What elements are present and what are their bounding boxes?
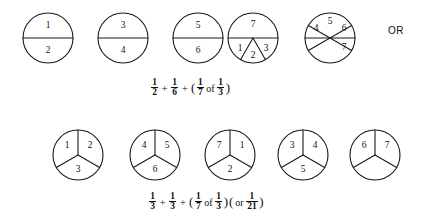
sector-label: 3 <box>264 43 269 53</box>
sector-label: 3 <box>76 164 81 174</box>
sector-label: 4 <box>121 45 126 55</box>
fraction: 17 <box>197 78 204 99</box>
fraction: 16 <box>171 78 178 99</box>
sector-label: 2 <box>88 140 93 150</box>
fraction-denominator: 3 <box>215 202 222 212</box>
fraction: 13 <box>169 192 176 213</box>
fraction-denominator: 6 <box>171 88 178 98</box>
fraction-numerator: 1 <box>215 192 222 202</box>
fraction: 12 <box>151 78 158 99</box>
word-text: of <box>204 197 212 208</box>
fraction: 13 <box>215 192 222 213</box>
plus-operator: + <box>182 82 188 94</box>
sector-label: 7 <box>385 140 390 150</box>
fraction-denominator: 3 <box>217 88 224 98</box>
sector-label: 1 <box>65 140 70 150</box>
circle-2-halves: 34 <box>95 10 151 66</box>
sector-label: 5 <box>196 20 201 30</box>
sector-label: 1 <box>46 20 51 30</box>
word-text: of <box>206 83 214 94</box>
fraction-numerator: 1 <box>217 78 224 88</box>
fraction: 121 <box>246 192 258 213</box>
circle-9-thirds: 345 <box>275 127 331 183</box>
fraction-numerator: 1 <box>171 78 178 88</box>
parenthesis: ) <box>224 194 228 210</box>
equation-top: 12+16+(17of13) <box>150 78 230 99</box>
circle-8-thirds: 712 <box>202 127 258 183</box>
sector-label: 7 <box>217 140 222 150</box>
sector-label: 4 <box>313 140 318 150</box>
diagram-canvas: 1234567123456712345671234567 OR 12+16+(1… <box>0 0 438 221</box>
circle-3-halves: 56 <box>170 10 226 66</box>
fraction-numerator: 1 <box>249 192 256 202</box>
sector-label: 6 <box>196 45 201 55</box>
fraction-denominator: 3 <box>169 202 176 212</box>
sector-label: 4 <box>142 140 147 150</box>
sector-label: 5 <box>328 16 333 26</box>
fraction: 13 <box>149 192 156 213</box>
fraction-denominator: 7 <box>197 88 204 98</box>
sector-label: 7 <box>342 42 347 52</box>
fraction-numerator: 1 <box>149 192 156 202</box>
parenthesis: ( <box>189 194 193 210</box>
sector-label: 3 <box>290 140 295 150</box>
parenthesis: ( <box>191 80 195 96</box>
word-text: or <box>235 197 243 208</box>
sector-label: 1 <box>238 43 243 53</box>
fraction-denominator: 3 <box>149 202 156 212</box>
fraction-denominator: 2 <box>151 88 158 98</box>
sector-label: 2 <box>46 45 51 55</box>
circle-6-thirds: 123 <box>50 127 106 183</box>
fraction: 17 <box>195 192 202 213</box>
or-connector-label: OR <box>388 25 404 36</box>
fraction-numerator: 1 <box>197 78 204 88</box>
fraction-denominator: 21 <box>246 202 258 212</box>
circle-7-thirds: 456 <box>127 127 183 183</box>
parenthesis: ) <box>259 194 263 210</box>
circle-5-sixths: 4567 <box>302 10 358 66</box>
circle-1-halves: 12 <box>20 10 76 66</box>
circle-4-half-and-thirds: 7123 <box>225 10 281 66</box>
sector-label: 1 <box>240 140 245 150</box>
parenthesis: ( <box>229 194 233 210</box>
sector-label: 4 <box>314 23 319 33</box>
plus-operator: + <box>160 196 166 208</box>
sector-label: 7 <box>251 19 256 29</box>
sector-label: 5 <box>301 164 306 174</box>
sector-label: 2 <box>228 164 233 174</box>
equation-bottom: 13+13+(17of13)(or121) <box>148 192 264 213</box>
fraction-numerator: 1 <box>195 192 202 202</box>
fraction-numerator: 1 <box>151 78 158 88</box>
fraction-denominator: 7 <box>195 202 202 212</box>
fraction: 13 <box>217 78 224 99</box>
plus-operator: + <box>162 82 168 94</box>
sector-label: 6 <box>153 164 158 174</box>
sector-label: 3 <box>121 20 126 30</box>
circle-10-thirds: 67 <box>347 127 403 183</box>
sector-label: 2 <box>251 50 256 60</box>
plus-operator: + <box>180 196 186 208</box>
fraction-numerator: 1 <box>169 192 176 202</box>
sector-label: 6 <box>342 23 347 33</box>
sector-label: 5 <box>165 140 170 150</box>
parenthesis: ) <box>226 80 230 96</box>
sector-label: 6 <box>362 140 367 150</box>
